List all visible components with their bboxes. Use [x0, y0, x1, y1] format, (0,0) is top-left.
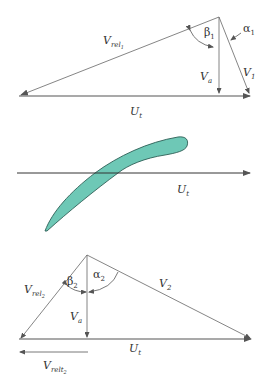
- inlet-beta-label: β1: [204, 26, 215, 41]
- inlet-vrel-vector: [21, 17, 219, 95]
- outlet-va-label: Va: [70, 310, 82, 325]
- outlet-v2-vector: [87, 255, 250, 338]
- blade-profile: [45, 137, 188, 231]
- velocity-triangle-diagram: Vrel1 β1 α1 Va V1 Ut Ut: [0, 0, 268, 386]
- blade-section: Ut: [17, 137, 250, 231]
- inlet-velocity-triangle: Vrel1 β1 α1 Va V1 Ut: [19, 17, 255, 120]
- blade-ut-label: Ut: [177, 183, 189, 198]
- inlet-vrel-label: Vrel1: [103, 34, 124, 50]
- outlet-vrelt-label: Vrelt2: [43, 359, 67, 375]
- inlet-alpha-label: α1: [243, 22, 255, 37]
- inlet-va-label: Va: [200, 70, 212, 85]
- inlet-alpha-pointer: [231, 33, 241, 40]
- outlet-v2-label: V2: [159, 277, 172, 292]
- inlet-ut-label: Ut: [130, 105, 142, 120]
- outlet-vrel-label: Vrel2: [24, 283, 45, 299]
- inlet-v1-label: V1: [243, 66, 255, 81]
- outlet-alpha-label: α2: [93, 268, 105, 283]
- outlet-vrel-vector: [21, 255, 87, 338]
- outlet-velocity-triangle: Vrel2 β2 α2 Va V2 Ut Vrelt2: [19, 255, 251, 375]
- outlet-ut-label: Ut: [129, 342, 141, 357]
- outlet-beta-label: β2: [67, 275, 78, 290]
